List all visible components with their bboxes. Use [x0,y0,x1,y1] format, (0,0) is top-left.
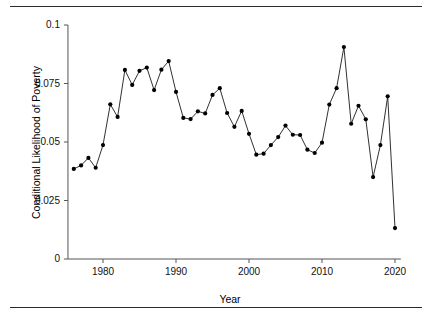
data-point-marker [167,59,171,63]
data-point-marker [145,65,149,69]
x-tick-label: 1980 [73,267,133,277]
data-point-marker [283,124,287,128]
data-point-marker [130,83,134,87]
data-point-marker [116,115,120,119]
data-point-marker [335,86,339,90]
data-point-marker [174,90,178,94]
data-point-marker [218,86,222,90]
x-tick-label: 2000 [219,267,279,277]
data-point-marker [210,93,214,97]
data-point-marker [254,153,258,157]
data-point-marker [320,141,324,145]
data-point-marker [94,166,98,170]
data-point-marker [225,111,229,115]
data-point-marker [240,109,244,113]
data-point-marker [72,167,76,171]
data-point-marker [356,104,360,108]
x-tick-label: 2010 [292,267,352,277]
data-point-marker [371,175,375,179]
data-point-marker [189,117,193,121]
axes-group [68,25,401,259]
data-point-marker [364,117,368,121]
data-point-marker [393,226,397,230]
data-point-marker [378,143,382,147]
data-point-marker [86,156,90,160]
data-point-marker [137,69,141,73]
data-point-marker [79,163,83,167]
data-point-marker [262,152,266,156]
data-point-marker [327,102,331,106]
x-tick-label: 2020 [365,267,425,277]
data-point-marker [342,45,346,49]
data-point-marker [247,132,251,136]
data-point-marker [386,94,390,98]
data-point-marker [152,88,156,92]
data-point-marker [101,143,105,147]
data-point-marker [123,68,127,72]
data-point-marker [305,148,309,152]
data-point-marker [196,109,200,113]
data-point-marker [108,102,112,106]
x-axis-title: Year [60,294,400,305]
data-point-marker [181,116,185,120]
data-point-marker [159,68,163,72]
data-point-marker [276,135,280,139]
data-point-marker [291,133,295,137]
data-point-marker [203,111,207,115]
data-series-group [72,45,397,230]
data-point-marker [232,125,236,129]
y-axis-title: Conditional Likelihood of Poverty [31,28,42,258]
data-point-marker [269,143,273,147]
data-point-marker [349,122,353,126]
data-point-marker [298,133,302,137]
series-line [74,47,395,228]
x-tick-label: 1990 [146,267,206,277]
data-point-marker [313,151,317,155]
figure-container: 00.0250.050.0750.1 19801990200020102020 … [0,0,430,319]
